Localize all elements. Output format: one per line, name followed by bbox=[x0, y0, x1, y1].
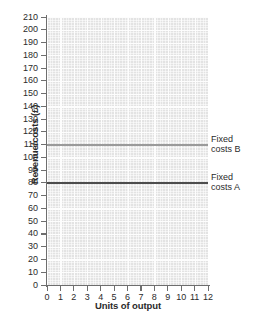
x-tick-mark bbox=[154, 286, 155, 291]
y-tick-mark bbox=[41, 259, 46, 260]
y-tick-label: 120 bbox=[0, 127, 38, 136]
legend-label-line-1: Fixed bbox=[211, 172, 240, 183]
y-tick-mark bbox=[41, 93, 46, 94]
x-tick-mark bbox=[47, 286, 48, 291]
y-tick-mark bbox=[41, 29, 46, 30]
y-tick-mark bbox=[41, 182, 46, 183]
x-tick-mark bbox=[208, 286, 209, 291]
y-tick-label: 140 bbox=[0, 102, 38, 111]
y-tick-mark bbox=[41, 119, 46, 120]
plot-area bbox=[47, 17, 208, 285]
y-tick-mark bbox=[41, 233, 46, 234]
x-tick-mark bbox=[167, 286, 168, 291]
y-tick-mark bbox=[41, 17, 46, 18]
y-tick-mark bbox=[41, 131, 46, 132]
legend-label-line-2: costs B bbox=[211, 144, 241, 155]
x-tick-mark bbox=[127, 286, 128, 291]
major-gridlines bbox=[47, 17, 208, 285]
legend-label-line-2: costs A bbox=[211, 182, 240, 193]
series-line-fixed-costs-b bbox=[47, 144, 208, 146]
x-tick-mark bbox=[60, 286, 61, 291]
series-line-fixed-costs-a bbox=[47, 182, 208, 184]
y-tick-mark bbox=[41, 170, 46, 171]
y-tick-label: 0 bbox=[0, 281, 38, 290]
x-axis-title: Units of output bbox=[47, 300, 209, 311]
x-tick-mark bbox=[73, 286, 74, 291]
y-tick-mark bbox=[41, 221, 46, 222]
y-tick-mark bbox=[41, 157, 46, 158]
y-tick-label: 180 bbox=[0, 51, 38, 60]
y-tick-mark bbox=[41, 80, 46, 81]
y-tick-mark bbox=[41, 195, 46, 196]
y-tick-mark bbox=[41, 246, 46, 247]
y-tick-mark bbox=[41, 285, 46, 286]
y-tick-label: 160 bbox=[0, 76, 38, 85]
y-tick-label: 100 bbox=[0, 153, 38, 162]
y-tick-label: 10 bbox=[0, 268, 38, 277]
x-tick-mark bbox=[181, 286, 182, 291]
y-axis-line bbox=[46, 15, 47, 287]
y-tick-mark bbox=[41, 144, 46, 145]
x-tick-mark bbox=[140, 286, 141, 291]
legend-label-line-1: Fixed bbox=[211, 134, 241, 145]
minor-gridlines bbox=[47, 17, 208, 285]
y-tick-label: 170 bbox=[0, 64, 38, 73]
legend-label-fixed-costs-a: Fixedcosts A bbox=[211, 172, 240, 193]
y-tick-mark bbox=[41, 208, 46, 209]
y-tick-mark bbox=[41, 68, 46, 69]
y-tick-label: 20 bbox=[0, 255, 38, 264]
y-tick-label: 110 bbox=[0, 140, 38, 149]
y-tick-label: 40 bbox=[0, 229, 38, 238]
y-tick-label: 190 bbox=[0, 38, 38, 47]
y-tick-label: 200 bbox=[0, 25, 38, 34]
y-tick-label: 150 bbox=[0, 89, 38, 98]
chart-container: Revenue/costs (£) 0102030405060708090100… bbox=[0, 0, 254, 320]
y-tick-mark bbox=[41, 272, 46, 273]
y-tick-label: 30 bbox=[0, 242, 38, 251]
x-tick-mark bbox=[114, 286, 115, 291]
y-tick-label: 130 bbox=[0, 115, 38, 124]
y-tick-mark bbox=[41, 55, 46, 56]
y-tick-label: 70 bbox=[0, 191, 38, 200]
x-tick-mark bbox=[194, 286, 195, 291]
x-tick-mark bbox=[100, 286, 101, 291]
y-tick-label: 80 bbox=[0, 178, 38, 187]
y-tick-label: 90 bbox=[0, 166, 38, 175]
y-tick-label: 210 bbox=[0, 13, 38, 22]
legend-label-fixed-costs-b: Fixedcosts B bbox=[211, 134, 241, 155]
x-tick-mark bbox=[87, 286, 88, 291]
y-tick-label: 50 bbox=[0, 217, 38, 226]
y-tick-label: 60 bbox=[0, 204, 38, 213]
y-tick-mark bbox=[41, 42, 46, 43]
y-tick-mark bbox=[41, 106, 46, 107]
